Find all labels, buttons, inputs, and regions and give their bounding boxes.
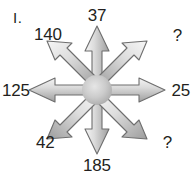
star-hub: [82, 75, 112, 105]
arrow-label-bottom-right: ?: [163, 133, 172, 153]
arrow-label-top-left: 140: [34, 25, 62, 45]
arrow-label-right: 25: [171, 81, 190, 101]
arrow-label-top: 37: [0, 6, 194, 26]
worksheet-canvas: I.: [0, 0, 194, 179]
arrow-label-top-right: ?: [173, 26, 182, 46]
arrow-label-left: 125: [2, 81, 30, 101]
arrow-label-bottom-left: 42: [36, 133, 55, 153]
arrow-label-bottom: 185: [0, 156, 194, 176]
